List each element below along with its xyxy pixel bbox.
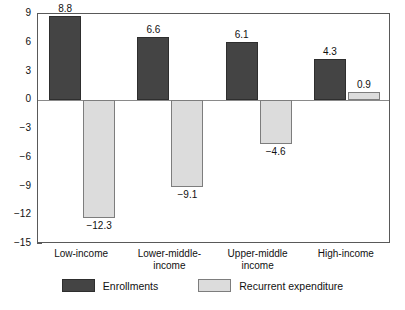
chart-legend: EnrollmentsRecurrent expenditure [0, 279, 405, 292]
legend-swatch-icon [62, 279, 95, 292]
bar-value-label: 0.9 [338, 79, 390, 90]
plot-area: 8.86.66.14.3−12.3−9.1−4.60.9 [37, 13, 390, 243]
legend-label: Enrollments [103, 280, 158, 292]
bar-value-label: 6.1 [216, 29, 268, 40]
bar-enrollments [226, 42, 258, 100]
legend-swatch-icon [198, 279, 231, 292]
y-axis-tick-label: −6 [0, 152, 31, 162]
legend-item-expenditure: Recurrent expenditure [198, 279, 343, 292]
y-axis-tick-label: −9 [0, 181, 31, 191]
bar-enrollments [137, 37, 169, 100]
bar-expenditure [260, 100, 292, 144]
bar-value-label: −9.1 [161, 189, 213, 200]
y-axis-tick-label: −15 [0, 238, 31, 248]
bar-chart-figure: 9630−3−6−9−12−15 8.86.66.14.3−12.3−9.1−4… [0, 0, 405, 310]
bar-value-label: 6.6 [127, 24, 179, 35]
legend-item-enrollments: Enrollments [62, 279, 158, 292]
bar-value-label: −4.6 [250, 146, 302, 157]
y-axis-tick-label: 0 [0, 94, 31, 104]
bar-value-label: −12.3 [73, 220, 125, 231]
y-axis-tick-label: −12 [0, 209, 31, 219]
x-axis-label-3: High-income [291, 248, 401, 260]
bar-enrollments [49, 16, 81, 100]
y-axis-tick-label: 6 [0, 37, 31, 47]
y-axis-tick-label: 3 [0, 66, 31, 76]
bar-value-label: 8.8 [39, 3, 91, 14]
y-axis-tick-mark [37, 243, 42, 244]
bar-expenditure [171, 100, 203, 187]
bar-expenditure [348, 92, 380, 101]
bar-value-label: 4.3 [304, 46, 356, 57]
y-axis-tick-label: 9 [0, 8, 31, 18]
bar-expenditure [83, 100, 115, 218]
y-axis-tick-label: −3 [0, 123, 31, 133]
legend-label: Recurrent expenditure [239, 280, 343, 292]
